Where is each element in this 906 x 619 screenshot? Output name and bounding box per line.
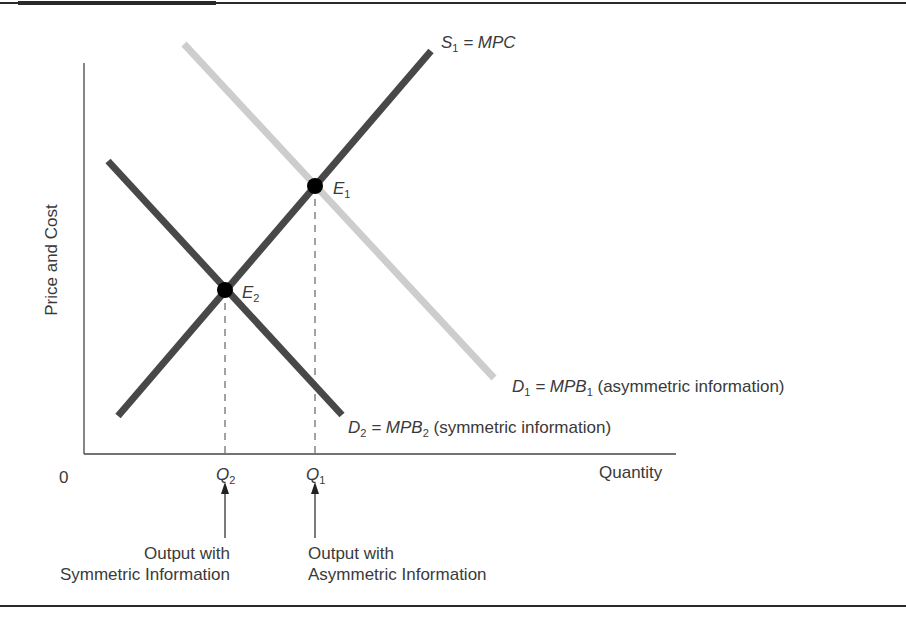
d1-demand-line: [184, 44, 494, 378]
symmetric-note-line2: Symmetric Information: [60, 564, 230, 585]
d1-label: D1 = MPB1 (asymmetric information): [512, 378, 785, 395]
e1-point: [307, 178, 323, 194]
d2-label-rest: (symmetric information): [429, 418, 611, 437]
q1-tick-label: Q1: [306, 466, 325, 483]
y-axis-label: Price and Cost: [42, 204, 62, 316]
s1-label: S1 = MPC: [441, 34, 516, 51]
d1-label-main: D: [512, 377, 524, 396]
d1-label-rest: (asymmetric information): [593, 377, 785, 396]
asymmetric-note-line2: Asymmetric Information: [308, 564, 487, 585]
q1-tick-main: Q: [306, 465, 319, 484]
d1-label-eq: = MPB: [530, 377, 586, 396]
e1-label-main: E: [333, 179, 344, 198]
d2-label-eq: = MPB: [366, 418, 422, 437]
e1-label: E1: [333, 180, 350, 197]
q2-tick-sub: 2: [229, 474, 235, 486]
e1-label-sub: 1: [344, 188, 350, 200]
chart-plot: [0, 0, 906, 619]
asymmetric-note-line1: Output with: [308, 543, 487, 564]
s1-label-main: S: [441, 33, 452, 52]
d2-label-main: D: [348, 418, 360, 437]
e2-label-main: E: [242, 283, 253, 302]
q2-tick-main: Q: [216, 465, 229, 484]
e2-label-sub: 2: [253, 292, 259, 304]
d2-label: D2 = MPB2 (symmetric information): [348, 419, 611, 436]
e2-point: [217, 282, 233, 298]
symmetric-output-note: Output with Symmetric Information: [60, 543, 230, 585]
x-axis-label: Quantity: [599, 464, 662, 481]
symmetric-note-line1: Output with: [60, 543, 230, 564]
e2-label: E2: [242, 284, 259, 301]
q1-tick-sub: 1: [319, 474, 325, 486]
asymmetric-output-note: Output with Asymmetric Information: [308, 543, 487, 585]
q2-tick-label: Q2: [216, 466, 235, 483]
origin-label: 0: [59, 469, 68, 486]
s1-label-rest: = MPC: [458, 33, 515, 52]
s1-supply-line: [118, 51, 431, 416]
